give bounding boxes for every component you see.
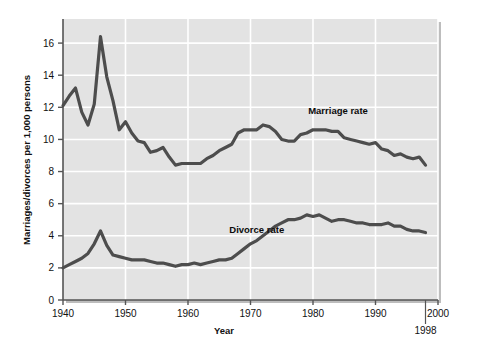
marriage-rate-label: Marriage rate [308, 105, 368, 116]
y-tick-label: 14 [43, 70, 55, 81]
y-tick-label: 4 [48, 230, 54, 241]
y-tick-label: 8 [48, 166, 54, 177]
divorce-rate-label: Divorce rate [229, 224, 284, 235]
x-tick-label: 2000 [427, 308, 450, 319]
line-chart: 0246810121416 19401950196019701980199020… [0, 0, 479, 350]
x-axis-title: Year [214, 325, 234, 336]
chart-figure: 0246810121416 19401950196019701980199020… [0, 0, 479, 350]
y-tick-label: 0 [48, 295, 54, 306]
y-tick-label: 12 [43, 102, 55, 113]
year-1998-callout: 1998 [414, 325, 437, 336]
x-tick-label: 1990 [364, 308, 387, 319]
y-tick-label: 10 [43, 134, 55, 145]
y-axis-title: Marriages/divorces per 1,000 persons [21, 75, 32, 245]
y-tick-label: 2 [48, 262, 54, 273]
x-tick-label: 1980 [302, 308, 325, 319]
x-tick-label: 1950 [114, 308, 137, 319]
x-tick-label: 1940 [52, 308, 75, 319]
x-tick-label: 1960 [177, 308, 200, 319]
y-tick-label: 6 [48, 198, 54, 209]
y-axis-ticks: 0246810121416 [43, 38, 63, 306]
y-tick-label: 16 [43, 38, 55, 49]
x-tick-label: 1970 [239, 308, 262, 319]
